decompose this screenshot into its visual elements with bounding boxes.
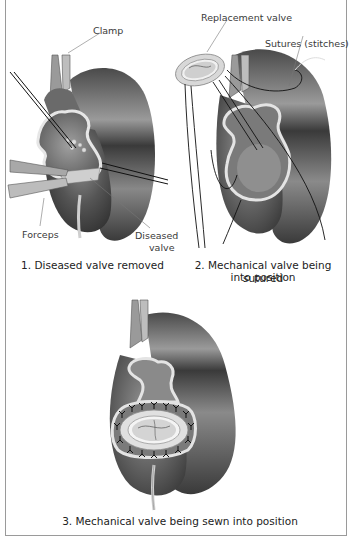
panel-1-diseased-valve-removed: Clamp Forceps Diseased valve 1. Diseased… (0, 0, 175, 290)
label-diseased-valve-2: valve (149, 242, 175, 253)
label-replacement-valve: Replacement valve (201, 12, 292, 23)
label-forceps: Forceps (22, 229, 59, 240)
panel-3-valve-sewn-in: 3. Mechanical valve being sewn into posi… (60, 290, 300, 540)
heart-illustration-3 (60, 290, 300, 540)
replacement-valve-ring (175, 49, 228, 91)
label-clamp: Clamp (93, 25, 123, 36)
label-diseased-valve-1: Diseased (135, 230, 178, 241)
caption-panel-3: 3. Mechanical valve being sewn into posi… (30, 515, 330, 528)
caption-panel-1: 1. Diseased valve removed (10, 259, 175, 272)
panel-2-valve-being-sutured: Replacement valve Sutures (stitches) 2. … (175, 0, 351, 290)
caption-panel-2-line-2: into position (175, 271, 351, 284)
label-sutures: Sutures (stitches) (265, 38, 349, 49)
